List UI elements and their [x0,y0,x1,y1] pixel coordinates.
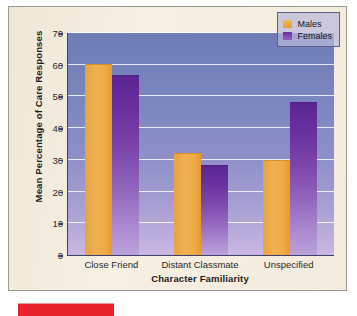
y-axis-tick-mark [59,128,63,130]
bar-females-close-friend [112,75,139,255]
bar-males-unspecified [263,160,290,255]
y-axis-tick-mark [59,255,63,257]
y-axis-tick-mark [59,223,63,225]
chart-figure-background: 010203040506070 Mean Percentage of Care … [9,7,346,290]
y-axis-tick-mark [59,192,63,194]
x-axis-tick-label: Close Friend [84,259,138,270]
x-axis-tick-label: Distant Classmate [161,259,238,270]
legend-item-females: Females [283,30,332,41]
y-axis-tick-mark [59,96,63,98]
y-axis-tick-mark [59,65,63,67]
y-axis-tick-mark [59,160,63,162]
legend-swatch-females-icon [283,32,292,40]
chart-figure-frame: 010203040506070 Mean Percentage of Care … [8,6,347,291]
bar-males-distant-classmate [174,153,201,255]
legend-item-males: Males [283,18,332,29]
red-accent-bar [18,303,114,316]
chart-legend: Males Females [277,12,340,47]
legend-swatch-males-icon [283,20,292,28]
bar-females-unspecified [290,102,317,255]
y-axis-tick-mark [59,33,63,35]
bar-females-distant-classmate [201,165,228,255]
legend-label-males: Males [297,19,321,29]
plot-area [67,33,334,256]
y-axis-title: Mean Percentage of Care Responses [33,27,44,207]
x-axis-tick-label: Unspecified [264,259,314,270]
x-axis-title: Character Familiarity [67,273,333,284]
legend-label-females: Females [297,31,332,41]
bar-males-close-friend [85,64,112,255]
